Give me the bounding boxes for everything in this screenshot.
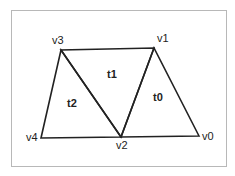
- triangle-t2: [41, 50, 121, 138]
- vertex-label-v1: v1: [157, 33, 169, 44]
- triangle-label-t1: t1: [107, 69, 117, 80]
- triangle-label-t0: t0: [153, 92, 163, 103]
- vertex-label-v2: v2: [116, 140, 128, 151]
- triangle-label-t2: t2: [67, 98, 77, 109]
- vertex-label-v0: v0: [202, 131, 214, 142]
- vertex-label-v3: v3: [52, 35, 64, 46]
- vertex-label-v4: v4: [26, 132, 38, 143]
- triangle-t1: [61, 48, 154, 137]
